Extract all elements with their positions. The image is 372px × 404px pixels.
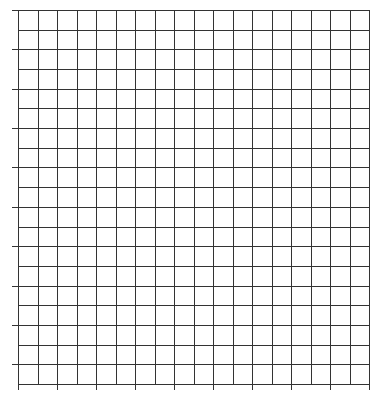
blank-grid-chart <box>0 0 372 404</box>
grid-lines <box>18 10 370 385</box>
axis-ticks <box>12 11 370 391</box>
